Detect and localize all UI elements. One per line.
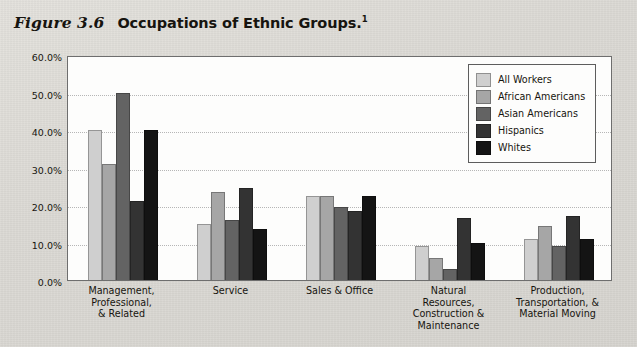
- x-axis-label-line: Production,: [530, 285, 584, 296]
- bar: [88, 130, 102, 280]
- legend: All WorkersAfrican AmericansAsian Americ…: [468, 64, 596, 163]
- x-axis-label-line: Management,: [88, 285, 154, 296]
- legend-item: Asian Americans: [476, 105, 588, 122]
- bar-group: [177, 57, 286, 280]
- x-axis-tick-label: Management,Professional,& Related: [67, 285, 176, 320]
- y-axis-tick-label: 0.0%: [38, 277, 62, 288]
- x-axis-label-line: Natural: [431, 285, 466, 296]
- x-axis-label-line: Maintenance: [418, 320, 480, 331]
- legend-item: All Workers: [476, 71, 588, 88]
- x-axis-tick-label: Service: [176, 285, 285, 297]
- bar: [348, 211, 362, 280]
- legend-label: Whites: [498, 142, 531, 153]
- bar-group: [68, 57, 177, 280]
- legend-item: Whites: [476, 139, 588, 156]
- bar: [443, 269, 457, 280]
- x-axis-label-line: Sales & Office: [306, 285, 373, 296]
- bar: [552, 246, 566, 280]
- figure-caption: Figure 3.6 Occupations of Ethnic Groups.…: [14, 13, 367, 32]
- bar: [471, 243, 485, 281]
- bar: [320, 196, 334, 280]
- bar: [225, 220, 239, 280]
- y-axis-tick-label: 10.0%: [32, 239, 62, 250]
- y-axis-tick-label: 20.0%: [32, 202, 62, 213]
- legend-item: African Americans: [476, 88, 588, 105]
- bar: [102, 164, 116, 280]
- bar: [580, 239, 594, 280]
- bar-group: [286, 57, 395, 280]
- legend-label: Asian Americans: [498, 108, 578, 119]
- y-axis-tick-label: 30.0%: [32, 164, 62, 175]
- bar: [334, 207, 348, 280]
- x-axis-tick-label: Sales & Office: [285, 285, 394, 297]
- legend-color-swatch: [476, 107, 491, 121]
- footnote-marker: 1: [362, 14, 368, 24]
- x-axis-label-line: Construction &: [413, 308, 485, 319]
- bar: [211, 192, 225, 280]
- legend-color-swatch: [476, 73, 491, 87]
- figure-container: Figure 3.6 Occupations of Ethnic Groups.…: [0, 0, 637, 347]
- legend-label: All Workers: [498, 74, 552, 85]
- y-axis-tick-label: 60.0%: [32, 52, 62, 63]
- bar: [306, 196, 320, 280]
- bar: [415, 246, 429, 280]
- y-axis-tick-label: 40.0%: [32, 127, 62, 138]
- y-axis-tick-label: 50.0%: [32, 89, 62, 100]
- x-axis-label-line: & Related: [98, 308, 145, 319]
- bar: [429, 258, 443, 281]
- bar: [253, 229, 267, 280]
- x-axis-label-line: Resources,: [422, 297, 474, 308]
- bar: [457, 218, 471, 280]
- bar: [538, 226, 552, 280]
- x-axis-tick-label: NaturalResources,Construction &Maintenan…: [394, 285, 503, 331]
- figure-title-text: Occupations of Ethnic Groups.: [117, 15, 361, 31]
- figure-number: Figure 3.6: [14, 13, 104, 32]
- legend-color-swatch: [476, 90, 491, 104]
- legend-color-swatch: [476, 124, 491, 138]
- bar: [524, 239, 538, 280]
- bar: [239, 188, 253, 280]
- legend-label: Hispanics: [498, 125, 544, 136]
- x-axis-label-line: Service: [213, 285, 248, 296]
- x-axis: Management,Professional,& RelatedService…: [67, 285, 612, 343]
- bar: [144, 130, 158, 280]
- bar: [362, 196, 376, 280]
- y-axis: 0.0%10.0%20.0%30.0%40.0%50.0%60.0%: [0, 56, 62, 282]
- figure-title: Occupations of Ethnic Groups.1: [117, 14, 367, 31]
- x-axis-tick-label: Production,Transportation, &Material Mov…: [503, 285, 612, 320]
- x-axis-label-line: Material Moving: [519, 308, 596, 319]
- bar: [197, 224, 211, 280]
- bar: [566, 216, 580, 280]
- bar: [116, 93, 130, 281]
- legend-color-swatch: [476, 141, 491, 155]
- bar: [130, 201, 144, 280]
- legend-label: African Americans: [498, 91, 585, 102]
- legend-item: Hispanics: [476, 122, 588, 139]
- x-axis-label-line: Professional,: [91, 297, 152, 308]
- x-axis-label-line: Transportation, &: [516, 297, 599, 308]
